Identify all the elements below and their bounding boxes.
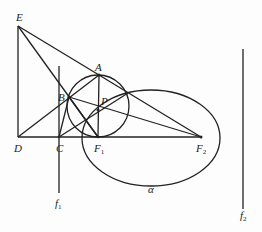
label-F1: F1 — [93, 142, 105, 156]
label-F2: F2 — [195, 142, 207, 156]
label-E: E — [15, 11, 23, 23]
label-D: D — [13, 142, 22, 154]
label-f2: f2 — [240, 209, 247, 223]
label-A: A — [94, 61, 102, 73]
segment-EF2 — [99, 75, 201, 137]
diagram-canvas: E D C A B P F1 F2 α f1 f2 — [0, 0, 262, 232]
label-B: B — [58, 91, 65, 103]
label-C: C — [56, 142, 64, 154]
segment-BF1 — [69, 97, 98, 137]
point-B — [68, 96, 71, 99]
point-P — [97, 109, 100, 112]
label-P: P — [100, 95, 108, 107]
label-alpha: α — [148, 183, 154, 195]
label-f1: f1 — [55, 197, 62, 211]
point-C — [58, 136, 60, 138]
point-A — [98, 74, 101, 77]
point-F2 — [200, 136, 203, 139]
point-F1 — [97, 136, 99, 138]
geometry-diagram: E D C A B P F1 F2 α f1 f2 — [0, 0, 262, 232]
